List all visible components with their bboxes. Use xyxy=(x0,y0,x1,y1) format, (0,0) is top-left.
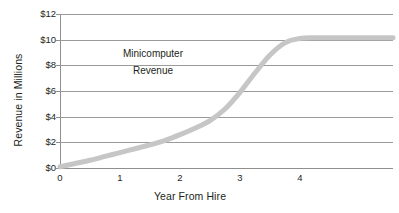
y-tick-label-6: $6 xyxy=(28,86,56,96)
x-tick-label-0: 0 xyxy=(45,172,75,184)
x-tick-label-1: 1 xyxy=(105,172,135,184)
minicomputer-revenue-chart: Revenue in Millions $0$2$4$6$8$10$12 Min… xyxy=(0,0,399,213)
y-tick-label-10: $10 xyxy=(28,35,56,45)
x-tick-label-4: 4 xyxy=(285,172,315,184)
x-axis-tick-labels: 01234 xyxy=(60,172,393,186)
gridline-y-0 xyxy=(60,168,393,169)
y-tick-label-8: $8 xyxy=(28,60,56,70)
y-tick-label-12: $12 xyxy=(28,9,56,19)
series-curve-layer xyxy=(60,14,393,168)
x-tick-label-2: 2 xyxy=(165,172,195,184)
plot-area: MinicomputerRevenue xyxy=(60,14,393,168)
y-axis-title: Revenue in Millions xyxy=(10,20,26,180)
y-tick-label-4: $4 xyxy=(28,112,56,122)
x-axis-title: Year From Hire xyxy=(60,189,320,203)
series-line-minicomputer-revenue xyxy=(60,38,393,167)
y-tick-label-2: $2 xyxy=(28,137,56,147)
x-tick-label-3: 3 xyxy=(225,172,255,184)
